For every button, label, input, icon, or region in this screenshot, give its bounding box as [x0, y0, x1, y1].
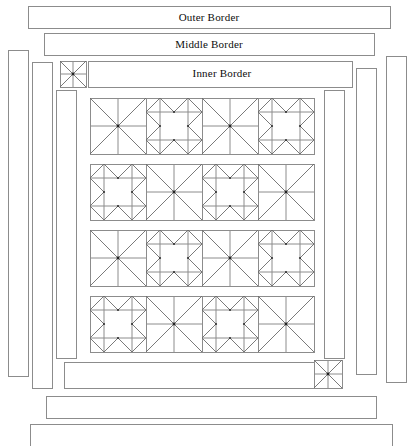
star-center-dot [72, 73, 75, 76]
geese-point-dot [159, 125, 161, 127]
geese-point-dot [131, 323, 133, 325]
geese-point-dot [159, 257, 161, 259]
geese-point-dot [285, 243, 287, 245]
star-center-dot [117, 257, 120, 260]
geese-point-dot [187, 257, 189, 259]
outer-border-right [387, 57, 407, 383]
sawtooth-star-block [91, 165, 147, 221]
geese-point-dot [271, 257, 273, 259]
inner-border-bottom [65, 363, 323, 389]
geese-point-dot [285, 271, 287, 273]
outer-border-left [9, 51, 29, 377]
geese-point-dot [103, 191, 105, 193]
geese-point-dot [117, 205, 119, 207]
inner-border-right [325, 91, 345, 359]
inner-border-top [89, 62, 353, 88]
inner-border-left [57, 91, 77, 359]
geese-point-dot [229, 337, 231, 339]
quilt-assembly-diagram: Outer Border Middle Border Inner Border [0, 0, 416, 446]
star-center-dot [173, 191, 176, 194]
geese-point-dot [243, 323, 245, 325]
geese-point-dot [117, 309, 119, 311]
outer-border-bottom [31, 425, 393, 446]
geese-point-dot [271, 125, 273, 127]
geese-point-dot [103, 323, 105, 325]
star-center-dot [117, 125, 120, 128]
geese-point-dot [117, 177, 119, 179]
geese-point-dot [117, 337, 119, 339]
star-center-dot [229, 257, 232, 260]
geese-point-dot [173, 271, 175, 273]
sawtooth-star-block [259, 99, 315, 155]
geese-point-dot [243, 191, 245, 193]
star-center-dot [285, 191, 288, 194]
star-center-dot [327, 373, 330, 376]
middle-border-bottom [47, 397, 377, 419]
geese-point-dot [173, 139, 175, 141]
geese-point-dot [131, 191, 133, 193]
sawtooth-star-block [147, 99, 203, 155]
sawtooth-star-block [91, 297, 147, 353]
geese-point-dot [215, 323, 217, 325]
geese-point-dot [229, 205, 231, 207]
middle-border-top [45, 34, 375, 56]
sawtooth-star-block [203, 297, 259, 353]
middle-border-left [33, 63, 53, 389]
middle-border-right [357, 69, 377, 375]
outer-border-top [29, 7, 391, 29]
sawtooth-star-block [259, 231, 315, 287]
star-center-dot [285, 323, 288, 326]
sawtooth-star-block [203, 165, 259, 221]
geese-point-dot [173, 111, 175, 113]
geese-point-dot [187, 125, 189, 127]
geese-point-dot [285, 139, 287, 141]
geese-point-dot [229, 177, 231, 179]
geese-point-dot [215, 191, 217, 193]
sawtooth-star-block [147, 231, 203, 287]
star-center-dot [229, 125, 232, 128]
geese-point-dot [173, 243, 175, 245]
quilt-diagram-canvas [0, 0, 416, 446]
geese-point-dot [299, 125, 301, 127]
geese-point-dot [285, 111, 287, 113]
geese-point-dot [229, 309, 231, 311]
geese-point-dot [299, 257, 301, 259]
star-center-dot [173, 323, 176, 326]
